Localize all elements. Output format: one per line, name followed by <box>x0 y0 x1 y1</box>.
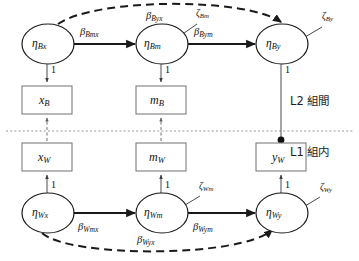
latent-node-eta-Bx[interactable] <box>22 24 74 64</box>
loading-label-eta-Bx: 1 <box>51 65 56 75</box>
loading-label-eta-Wm: 1 <box>165 180 170 190</box>
disturbance-label-zeta-By: ζBy <box>322 12 333 22</box>
latent-node-eta-By[interactable] <box>256 24 308 64</box>
loading-line-eta-By-to-yW <box>278 64 285 143</box>
observed-label-mB: mB <box>150 94 164 108</box>
loading-label-eta-Wy: 1 <box>285 180 290 190</box>
latent-label-eta-Bx: ηBx <box>32 38 46 51</box>
disturbance-label-zeta-Wy: ζWy <box>320 183 332 193</box>
observed-label-xW: xW <box>38 151 51 165</box>
latent-node-eta-Wy[interactable] <box>256 193 308 233</box>
latent-label-eta-Wx: ηWx <box>32 207 48 220</box>
path-label-beta-Wmx: βWmx <box>78 222 98 233</box>
path-beta-Byx <box>58 4 281 24</box>
observed-label-yW: yW <box>272 151 285 165</box>
disturbance-label-zeta-Bm: ζBm <box>196 9 209 19</box>
latent-label-eta-Wy: ηWy <box>266 207 282 220</box>
observed-label-xB: xB <box>39 94 50 108</box>
path-label-beta-Byx: βByx <box>146 11 163 22</box>
latent-label-eta-By: ηBy <box>266 38 280 51</box>
latent-label-eta-Bm: ηBm <box>144 38 161 51</box>
path-junction-dot <box>278 137 285 144</box>
observed-label-mW: mW <box>149 151 165 165</box>
path-label-beta-Bmx: βBmx <box>80 27 99 38</box>
loading-label-eta-Wx: 1 <box>51 180 56 190</box>
loading-label-eta-By: 1 <box>285 65 290 75</box>
loading-label-eta-Bm: 1 <box>165 65 170 75</box>
path-label-beta-Wyx: βWyx <box>137 235 155 246</box>
path-label-beta-Wym: βWym <box>193 222 213 233</box>
latent-label-eta-Wm: ηWm <box>144 207 163 220</box>
path-label-beta-Bym: βBym <box>194 27 213 38</box>
diagram-canvas <box>0 0 359 261</box>
disturbance-label-zeta-Wm: ζWm <box>199 182 213 192</box>
path-diagram-figure: ηBx ηBm ηBy ηWx ηWm ηWy xB mB xW mW yW β… <box>0 0 359 261</box>
level-label-L1: L1 組内 <box>290 147 329 159</box>
level-label-L2: L2 組間 <box>290 96 329 108</box>
